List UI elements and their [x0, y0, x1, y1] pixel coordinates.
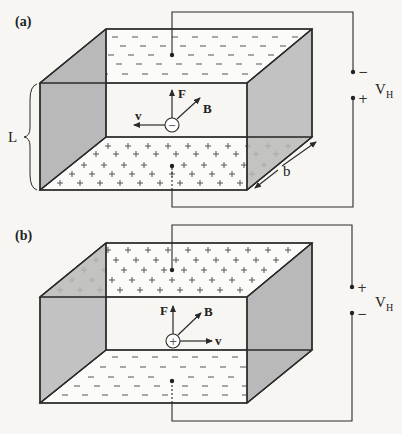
force-label-b: F: [160, 303, 168, 318]
panel-a: (a): [8, 12, 393, 207]
height-label-L: L: [8, 129, 17, 145]
svg-text:V: V: [375, 294, 386, 310]
terminal-upper-a: −: [358, 65, 368, 79]
depth-label-b: b: [283, 163, 291, 179]
force-label-a: F: [178, 86, 186, 101]
height-brace: [24, 84, 37, 190]
field-arrow-b: [178, 313, 201, 335]
panel-b: (b): [15, 225, 393, 421]
panel-a-label: (a): [15, 14, 32, 30]
field-arrow-a: [177, 98, 200, 119]
terminal-upper-b: +: [357, 281, 367, 295]
svg-text:−: −: [168, 120, 176, 131]
svg-text:H: H: [386, 89, 393, 100]
hall-voltage-label-b: V H: [375, 294, 393, 313]
velocity-label-a: v: [135, 108, 142, 123]
terminal-lower-b: −: [357, 307, 367, 321]
svg-text:V: V: [375, 81, 386, 97]
svg-text:+: +: [169, 336, 177, 347]
field-label-a: B: [203, 101, 212, 116]
field-label-b: B: [204, 304, 213, 319]
carrier-b: + F B v: [160, 303, 222, 348]
panel-b-label: (b): [15, 228, 32, 244]
terminal-lower-a: +: [358, 92, 368, 106]
carrier-a: − F B v: [134, 86, 212, 132]
velocity-label-b: v: [215, 333, 222, 348]
hall-voltage-label-a: V H: [375, 81, 393, 100]
svg-text:H: H: [386, 302, 393, 313]
